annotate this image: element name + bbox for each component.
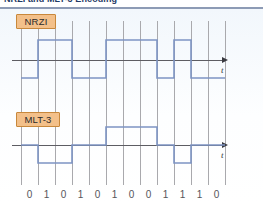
bit-label: 1 bbox=[40, 189, 54, 200]
figure-heading: NRZI and MLT-3 Encoding bbox=[0, 0, 263, 9]
bit-label: 0 bbox=[125, 189, 139, 200]
bit-label: 1 bbox=[108, 189, 122, 200]
mlt3-waveform bbox=[0, 9, 263, 203]
encoding-figure: t t NRZI MLT-3 010101001110 bbox=[0, 9, 263, 203]
bit-label: 0 bbox=[57, 189, 71, 200]
bit-label: 1 bbox=[176, 189, 190, 200]
bit-label: 1 bbox=[74, 189, 88, 200]
bit-label: 1 bbox=[159, 189, 173, 200]
bit-label: 1 bbox=[193, 189, 207, 200]
bit-label: 0 bbox=[210, 189, 224, 200]
bit-label: 0 bbox=[23, 189, 37, 200]
page-title: NRZI and MLT-3 Encoding bbox=[4, 0, 117, 4]
nrzi-signal-label: NRZI bbox=[16, 14, 56, 29]
bit-label: 0 bbox=[91, 189, 105, 200]
mlt3-signal-label: MLT-3 bbox=[16, 112, 60, 127]
bit-label: 0 bbox=[142, 189, 156, 200]
